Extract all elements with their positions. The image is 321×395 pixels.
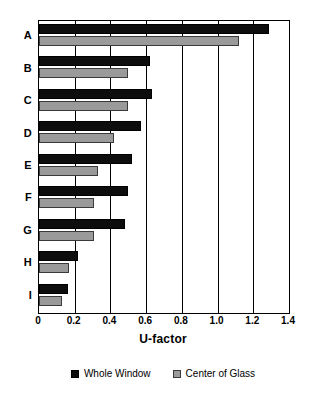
chart-legend: Whole WindowCenter of Glass	[38, 368, 288, 379]
category-label-i: I	[0, 289, 32, 301]
bar-b-whole-window	[39, 56, 150, 66]
chart-figure: ABCDEFGHI 00.20.40.60.81.01.21.4 U-facto…	[0, 0, 321, 395]
bar-group	[39, 183, 289, 215]
x-tick-1-2: 1.2	[237, 315, 267, 326]
bar-i-whole-window	[39, 284, 68, 294]
legend-item-whole-window[interactable]: Whole Window	[71, 368, 151, 379]
bar-c-whole-window	[39, 89, 152, 99]
x-axis-title: U-factor	[38, 332, 288, 346]
category-label-b: B	[0, 62, 32, 74]
category-label-d: D	[0, 127, 32, 139]
bar-group	[39, 86, 289, 118]
bar-rows	[39, 21, 289, 313]
bar-group	[39, 216, 289, 248]
bar-c-center-of-glass	[39, 101, 128, 111]
category-label-f: F	[0, 191, 32, 203]
bar-group	[39, 21, 289, 53]
legend-label: Whole Window	[84, 368, 151, 379]
bar-group	[39, 53, 289, 85]
x-tick-0-2: 0.2	[59, 315, 89, 326]
bar-a-whole-window	[39, 24, 269, 34]
bar-e-center-of-glass	[39, 166, 98, 176]
bar-group	[39, 118, 289, 150]
bar-group	[39, 281, 289, 313]
bar-group	[39, 248, 289, 280]
category-label-c: C	[0, 94, 32, 106]
category-label-g: G	[0, 224, 32, 236]
bar-f-whole-window	[39, 186, 128, 196]
x-tick-0-8: 0.8	[166, 315, 196, 326]
x-tick-0: 0	[23, 315, 53, 326]
legend-item-center-of-glass[interactable]: Center of Glass	[173, 368, 255, 379]
x-tick-1-4: 1.4	[273, 315, 303, 326]
bar-g-whole-window	[39, 219, 125, 229]
bar-b-center-of-glass	[39, 68, 128, 78]
legend-swatch-icon	[71, 370, 79, 378]
plot-area	[38, 20, 290, 314]
x-tick-0-6: 0.6	[130, 315, 160, 326]
bar-i-center-of-glass	[39, 296, 62, 306]
category-label-e: E	[0, 159, 32, 171]
legend-swatch-icon	[173, 370, 181, 378]
bar-d-whole-window	[39, 121, 141, 131]
clipped-header-text	[34, 0, 284, 2]
bar-g-center-of-glass	[39, 231, 94, 241]
category-label-h: H	[0, 256, 32, 268]
bar-d-center-of-glass	[39, 133, 114, 143]
category-label-a: A	[0, 29, 32, 41]
bar-h-center-of-glass	[39, 263, 69, 273]
x-tick-1-0: 1.0	[202, 315, 232, 326]
bar-a-center-of-glass	[39, 36, 239, 46]
bar-h-whole-window	[39, 251, 78, 261]
bar-group	[39, 151, 289, 183]
bar-e-whole-window	[39, 154, 132, 164]
x-tick-0-4: 0.4	[94, 315, 124, 326]
legend-label: Center of Glass	[186, 368, 255, 379]
bar-f-center-of-glass	[39, 198, 94, 208]
